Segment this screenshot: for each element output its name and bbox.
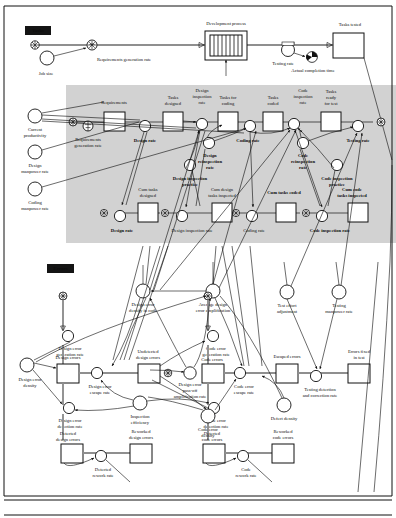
stock-errors-fixed-in-test [348, 364, 370, 383]
label-coding-manpower-1: Coding [28, 200, 42, 205]
band-label-errors: Errors [53, 266, 67, 271]
valve-testing-rate-detail [352, 120, 363, 131]
stock-reworked-design-errors [130, 444, 152, 463]
stock-design-errors [57, 364, 79, 383]
aux-code-inspection-practice [331, 159, 342, 170]
label-testing-det-1: Testing detection [304, 387, 336, 392]
label-design-errors: Design errors [56, 355, 81, 360]
label-test-effort-1: Test effort [278, 303, 298, 308]
label-design-manpower-2: manpower rate [21, 169, 48, 174]
stock-tasks-for-coding [218, 112, 238, 131]
stock-cum-tasks-designed [138, 203, 158, 222]
band-label-tasks: Tasks [32, 28, 44, 33]
label-testing-rate-top: Testing rate [272, 61, 294, 66]
label-design-manpower-1: Design [28, 163, 42, 168]
aux-design-manpower-rate [28, 145, 42, 159]
aux-code-reinspection-rate [297, 137, 308, 148]
valve-code-inspection-rate-cum [316, 210, 327, 221]
label-escaped-errors: Escaped errors [273, 354, 300, 359]
label-coding-manpower-2: manpower rate [21, 206, 48, 211]
aux-coding-manpower-rate [28, 182, 42, 196]
stock-detected-code-errors [203, 444, 225, 463]
label-design-error-det-1: Design error [58, 418, 82, 423]
label-design-rate-cum: Design rate [111, 228, 133, 233]
label-testing-manpower-2: manpower rate [325, 309, 352, 314]
link-code-rework-in [248, 460, 272, 482]
label-actual-completion-time: Actual completion time [291, 68, 334, 73]
label-inspection-eff-2: efficiency [131, 420, 150, 425]
label-detected-rework-1: Detected [95, 467, 112, 472]
label-requirements: Requirements [101, 100, 127, 105]
label-avg-amp-1: Average design [199, 302, 228, 307]
stock-tasks-tested [333, 33, 364, 58]
label-tasks-for-coding-2: coding [222, 101, 235, 106]
label-tasks-coded-2: coded [268, 101, 280, 106]
label-code-error-gen-1: Code error [206, 346, 226, 351]
label-code-inspection-rate-hdr-3: rate [300, 100, 307, 105]
valve-design-error-generation-rate [62, 330, 73, 341]
stock-requirements [104, 112, 125, 131]
label-cum-tasks-designed-2: designed [140, 193, 157, 198]
label-design-error-escape-2: escape rate [90, 390, 110, 395]
valve-code-rework-rate [237, 450, 248, 461]
stock-tasks-coded [263, 112, 283, 131]
aux-code-error-density [201, 409, 215, 423]
label-design-reinspection-2: reinspection [198, 159, 222, 164]
label-errors-fixed-1: Errors fixed [348, 349, 371, 354]
label-testing-manpower-1: Testing [332, 303, 346, 308]
label-cum-design-insp-1: Cum design [211, 187, 234, 192]
aux-actual-completion-time [306, 52, 317, 63]
link-testingrate-to-act [294, 53, 305, 57]
label-design-error-density-2: density [23, 383, 37, 388]
label-cum-tasks-designed-1: Cum tasks [138, 187, 157, 192]
label-development-process: Development process [206, 21, 246, 26]
label-detected-rework-2: rework rate [92, 473, 113, 478]
aux-defect-density [277, 398, 291, 412]
aux-test-effort-adjustment [280, 285, 294, 299]
label-reworked-design-2: design errors [129, 435, 153, 440]
stock-reworked-code-errors [272, 444, 294, 463]
link-tmr-up [336, 262, 339, 285]
valve-coding-rate [244, 120, 255, 131]
diagram-canvas: Tasks Errors Requirements generation rat… [0, 0, 396, 518]
label-code-errors: Code errors [201, 357, 223, 362]
label-coding-rate-detail: Coding rate [236, 138, 259, 143]
label-errors-fixed-2: in test [353, 355, 365, 360]
label-inspection-eff-1: Inspection [130, 414, 150, 419]
label-code-error-density-2: density [201, 433, 215, 438]
aux-design-error-density [20, 358, 34, 372]
label-reworked-design-1: Reworked [132, 429, 152, 434]
label-testing-rate-detail: Testing rate [346, 138, 369, 143]
label-tasks-designed-1: Tasks [168, 95, 179, 100]
aux-testing-manpower-rate [332, 285, 346, 299]
link-jobsize-to-reqrate [54, 48, 86, 56]
label-cum-design-insp-2: tasks inspected [208, 193, 236, 198]
label-cum-code-insp-1: Cum code [342, 187, 362, 192]
label-code-error-density-1: Code error [198, 427, 218, 432]
aux-design-error-density-in-code [136, 284, 150, 298]
valve-requirements-generation-rate [83, 121, 93, 131]
valve-code-inspection-rate [288, 118, 299, 129]
label-job-size: Job size [39, 71, 54, 76]
label-code-inspection-rate-hdr-2: inspection [294, 94, 314, 99]
label-tasks-tested: Tasks tested [339, 22, 362, 27]
label-code-rework-2: rework rate [235, 473, 256, 478]
cloud-source-detail [69, 118, 77, 126]
label-dedic-1: Design error [131, 302, 155, 307]
valve-design-rate [139, 120, 150, 131]
valve-cap-testing [282, 42, 294, 45]
aux-job-size [40, 51, 54, 65]
stock-cum-design-tasks-inspected [212, 203, 232, 222]
valve-design-error-escape-rate [91, 367, 102, 378]
label-tasks-ready-3: for test [325, 101, 339, 106]
label-current-productivity-2: productivity [24, 133, 47, 138]
valve-design-inspection-rate [196, 118, 207, 129]
label-tasks-coded-1: Tasks [268, 95, 279, 100]
stock-cum-tasks-coded [276, 203, 296, 222]
cloud-sink-detail [377, 118, 385, 126]
label-tasks-for-coding-1: Tasks for [220, 95, 237, 100]
label-design-error-gen-1: Design error [58, 346, 82, 351]
label-undetected-design-1: Undetected [138, 349, 160, 354]
label-code-error-escape-1: Code error [234, 384, 254, 389]
label-cum-code-insp-2: tasks inspected [337, 193, 367, 198]
